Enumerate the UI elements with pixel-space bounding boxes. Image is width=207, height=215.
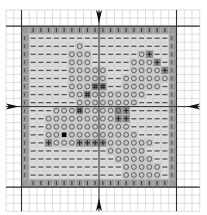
dash-symbol-icon	[93, 54, 98, 55]
dash-symbol-icon	[46, 110, 51, 111]
dash-symbol-icon	[93, 62, 98, 63]
dash-symbol-icon	[77, 158, 82, 159]
dash-symbol-icon	[116, 166, 121, 167]
solid-square-symbol-icon	[62, 132, 67, 137]
dash-symbol-icon	[124, 38, 129, 39]
dash-symbol-icon	[139, 110, 144, 111]
dash-symbol-icon	[162, 126, 167, 127]
dash-symbol-icon	[131, 54, 136, 55]
dash-symbol-icon	[116, 38, 121, 39]
dash-symbol-icon	[124, 46, 129, 47]
dash-symbol-icon	[54, 62, 59, 63]
dash-symbol-icon	[162, 102, 167, 103]
dash-symbol-icon	[162, 94, 167, 95]
dash-symbol-icon	[147, 94, 152, 95]
dash-symbol-icon	[155, 134, 160, 135]
dash-symbol-icon	[93, 38, 98, 39]
dash-symbol-icon	[116, 174, 121, 175]
dash-symbol-icon	[38, 134, 43, 135]
dash-symbol-icon	[38, 86, 43, 87]
dash-symbol-icon	[38, 94, 43, 95]
cross-stitch-chart	[0, 0, 207, 215]
dash-symbol-icon	[46, 38, 51, 39]
dash-symbol-icon	[77, 38, 82, 39]
dash-symbol-icon	[108, 86, 113, 87]
dash-symbol-icon	[62, 166, 67, 167]
dash-symbol-icon	[100, 174, 105, 175]
dash-symbol-icon	[54, 70, 59, 71]
dash-symbol-icon	[162, 166, 167, 167]
dash-symbol-icon	[85, 46, 90, 47]
dash-symbol-icon	[62, 70, 67, 71]
dash-symbol-icon	[108, 166, 113, 167]
dash-symbol-icon	[147, 134, 152, 135]
dash-symbol-icon	[85, 150, 90, 151]
dash-symbol-icon	[62, 46, 67, 47]
dash-symbol-icon	[139, 102, 144, 103]
dash-symbol-icon	[116, 86, 121, 87]
dash-symbol-icon	[54, 158, 59, 159]
dash-symbol-icon	[54, 94, 59, 95]
dash-symbol-icon	[69, 150, 74, 151]
dash-symbol-icon	[38, 174, 43, 175]
dash-symbol-icon	[54, 86, 59, 87]
dash-symbol-icon	[31, 110, 36, 111]
dash-symbol-icon	[31, 38, 36, 39]
dash-symbol-icon	[54, 174, 59, 175]
dash-symbol-icon	[31, 102, 36, 103]
dash-symbol-icon	[108, 70, 113, 71]
dash-symbol-icon	[100, 166, 105, 167]
dash-symbol-icon	[155, 38, 160, 39]
dash-symbol-icon	[31, 70, 36, 71]
dash-symbol-icon	[54, 166, 59, 167]
dash-symbol-icon	[69, 158, 74, 159]
dash-symbol-icon	[38, 118, 43, 119]
dash-symbol-icon	[108, 38, 113, 39]
dash-symbol-icon	[93, 150, 98, 151]
dash-symbol-icon	[139, 126, 144, 127]
dash-symbol-icon	[54, 102, 59, 103]
dash-symbol-icon	[38, 110, 43, 111]
dash-symbol-icon	[46, 46, 51, 47]
dash-symbol-icon	[131, 118, 136, 119]
dash-symbol-icon	[62, 38, 67, 39]
dash-symbol-icon	[69, 46, 74, 47]
dash-symbol-icon	[38, 158, 43, 159]
dash-symbol-icon	[85, 158, 90, 159]
dash-symbol-icon	[155, 118, 160, 119]
dash-symbol-icon	[38, 54, 43, 55]
stitch-cell	[76, 107, 84, 115]
dash-symbol-icon	[162, 174, 167, 175]
dash-symbol-icon	[38, 126, 43, 127]
dash-symbol-icon	[77, 174, 82, 175]
dash-symbol-icon	[38, 150, 43, 151]
dash-symbol-icon	[108, 62, 113, 63]
dash-symbol-icon	[131, 110, 136, 111]
dash-symbol-icon	[162, 38, 167, 39]
dash-symbol-icon	[38, 46, 43, 47]
dash-symbol-icon	[31, 174, 36, 175]
dash-symbol-icon	[147, 38, 152, 39]
dash-symbol-icon	[46, 102, 51, 103]
dash-symbol-icon	[46, 86, 51, 87]
dash-symbol-icon	[116, 62, 121, 63]
dash-symbol-icon	[147, 110, 152, 111]
stitch-cell	[99, 82, 107, 90]
dash-symbol-icon	[31, 118, 36, 119]
stitch-cell	[91, 82, 99, 90]
dash-symbol-icon	[100, 150, 105, 151]
dash-symbol-icon	[116, 70, 121, 71]
dash-symbol-icon	[85, 166, 90, 167]
dash-symbol-icon	[162, 62, 167, 63]
dash-symbol-icon	[31, 78, 36, 79]
dash-symbol-icon	[108, 46, 113, 47]
dash-symbol-icon	[31, 142, 36, 143]
dash-symbol-icon	[100, 158, 105, 159]
dash-symbol-icon	[93, 174, 98, 175]
dash-symbol-icon	[77, 150, 82, 151]
dash-symbol-icon	[108, 174, 113, 175]
dash-symbol-icon	[100, 46, 105, 47]
dash-symbol-icon	[108, 78, 113, 79]
dash-symbol-icon	[155, 94, 160, 95]
dash-symbol-icon	[31, 150, 36, 151]
